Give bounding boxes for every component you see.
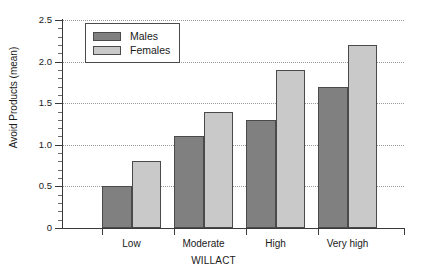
y-tick-major <box>55 145 62 146</box>
y-tick-major <box>55 228 62 229</box>
y-tick-major <box>55 103 62 104</box>
y-tick-minor <box>58 53 62 54</box>
x-tick-end <box>404 228 405 235</box>
bar-females-moderate <box>204 112 234 228</box>
x-category-label-very-high: Very high <box>308 238 388 249</box>
x-tick <box>174 228 175 235</box>
y-tick-major <box>55 186 62 187</box>
x-tick <box>318 228 319 235</box>
x-category-label-moderate: Moderate <box>164 238 244 249</box>
legend-item-females: Females <box>93 43 170 57</box>
y-tick-minor <box>58 220 62 221</box>
y-tick-minor <box>58 87 62 88</box>
bar-males-high <box>246 120 276 228</box>
y-tick-minor <box>58 45 62 46</box>
y-tick-minor <box>58 37 62 38</box>
x-tick <box>246 228 247 235</box>
y-axis-title: Avoid Products (mean) <box>8 13 19 183</box>
y-tick-minor <box>58 178 62 179</box>
legend-label-males: Males <box>130 31 158 42</box>
y-tick-minor <box>58 203 62 204</box>
y-tick-minor <box>58 136 62 137</box>
y-tick-minor <box>58 120 62 121</box>
bar-females-low <box>132 161 162 228</box>
x-axis-title: WILLACT <box>0 255 427 266</box>
y-axis-line <box>62 19 63 229</box>
legend: Males Females <box>85 23 180 63</box>
legend-swatch-females-icon <box>93 46 121 55</box>
chart-figure: 00.51.01.52.02.5 LowModerateHighVery hig… <box>0 0 427 279</box>
bar-males-very-high <box>318 87 348 228</box>
x-category-label-low: Low <box>92 238 172 249</box>
y-tick-minor <box>58 28 62 29</box>
y-tick-label: 0 <box>22 223 52 233</box>
y-tick-minor <box>58 153 62 154</box>
y-tick-minor <box>58 195 62 196</box>
legend-item-males: Males <box>93 29 170 43</box>
y-tick-label: 2.0 <box>22 57 52 67</box>
y-tick-minor <box>58 95 62 96</box>
y-tick-minor <box>58 170 62 171</box>
y-tick-label: 2.5 <box>22 15 52 25</box>
legend-swatch-males-icon <box>93 32 121 41</box>
y-tick-major <box>55 20 62 21</box>
y-tick-label: 1.0 <box>22 140 52 150</box>
y-tick-minor <box>58 112 62 113</box>
bar-males-low <box>102 186 132 228</box>
bar-males-moderate <box>174 136 204 228</box>
y-tick-minor <box>58 70 62 71</box>
y-tick-minor <box>58 161 62 162</box>
y-tick-minor <box>58 128 62 129</box>
x-axis-line <box>62 228 405 229</box>
y-tick-minor <box>58 211 62 212</box>
gridline <box>62 20 404 21</box>
y-tick-major <box>55 62 62 63</box>
x-category-label-high: High <box>236 238 316 249</box>
y-tick-minor <box>58 78 62 79</box>
x-tick <box>102 228 103 235</box>
y-tick-label: 0.5 <box>22 181 52 191</box>
bar-females-high <box>276 70 306 228</box>
y-tick-label: 1.5 <box>22 98 52 108</box>
bar-females-very-high <box>348 45 378 228</box>
legend-label-females: Females <box>130 45 170 56</box>
